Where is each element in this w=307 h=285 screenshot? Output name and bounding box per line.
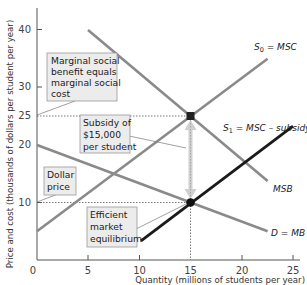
y-axis-label: Price and cost (thousands of dollars per… (5, 20, 15, 269)
annotation-line: equilibrium (90, 233, 142, 244)
chart-svg: Price and cost (thousands of dollars per… (0, 0, 307, 285)
subsidy-chart: Price and cost (thousands of dollars per… (0, 0, 307, 285)
annotation-efficient-equilibrium: Efficient market equilibrium (87, 207, 142, 247)
x-tick-0: 0 (30, 265, 36, 276)
annotation-line: Dollar (47, 169, 74, 180)
annotation-line: per student (83, 141, 137, 152)
annotation-line: market (90, 221, 123, 232)
annotation-dollar-price: Dollar price (44, 167, 76, 195)
y-tick-20: 20 (18, 139, 31, 150)
pointer-subsidy (129, 136, 186, 148)
annotation-line: price (47, 181, 70, 192)
annotation-msb-equals-msc: Marginal social benefit equals marginal … (47, 53, 121, 101)
label-s1: S1 = MSC – subsidy (223, 123, 307, 135)
y-tick-40: 40 (18, 24, 31, 35)
point-efficient-outcome (187, 112, 195, 120)
pointer-msb-msc (37, 101, 75, 115)
label-msb: MSB (273, 184, 293, 194)
x-tick-5: 5 (85, 265, 91, 276)
subsidy-arrow (185, 120, 197, 199)
x-axis-label: Quantity (millions of students per year) (135, 275, 305, 285)
annotation-subsidy: Subsidy of $15,000 per student (80, 115, 137, 153)
y-tick-25: 25 (18, 110, 31, 121)
annotation-line: benefit equals (51, 66, 117, 77)
annotation-line: Subsidy of (83, 117, 132, 128)
y-tick-30: 30 (18, 81, 31, 92)
annotation-line: cost (51, 88, 70, 99)
point-market-equilibrium (186, 198, 195, 207)
annotation-line: marginal social (51, 77, 121, 88)
annotation-line: $15,000 (83, 129, 121, 140)
label-s0-msc: S0 = MSC (254, 42, 298, 54)
y-tick-10: 10 (18, 197, 31, 208)
annotation-line: Marginal social (51, 55, 120, 66)
annotation-line: Efficient (90, 209, 128, 220)
label-d-mb: D = MB (271, 228, 305, 238)
